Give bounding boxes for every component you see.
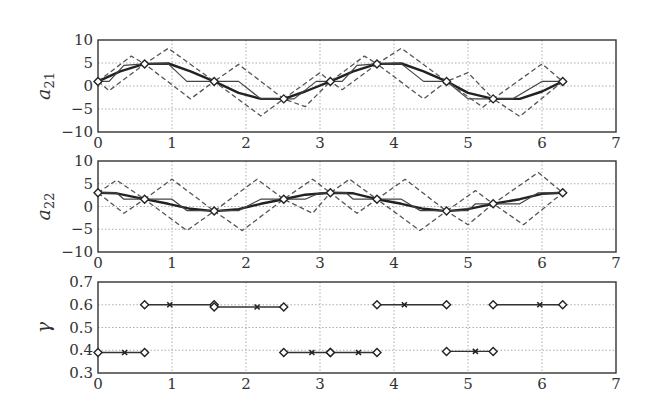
- x-tick-label: 6: [537, 375, 547, 393]
- x-tick-label: 7: [611, 375, 621, 393]
- y-axis-label: γ: [32, 321, 54, 333]
- x-tick-label: 5: [463, 134, 473, 152]
- series-line-dashed: [98, 64, 563, 117]
- diamond-marker: [326, 349, 334, 357]
- y-axis-label-main: γ: [32, 321, 54, 333]
- y-tick-label: 5: [83, 54, 93, 72]
- diamond-marker: [489, 301, 497, 309]
- x-tick-label: 3: [315, 254, 325, 272]
- panel-a22: 012345671050−5−10a22: [32, 152, 621, 272]
- x-tick-label: 2: [241, 375, 251, 393]
- y-axis-label: a22: [32, 193, 57, 221]
- y-tick-label: −10: [61, 123, 93, 141]
- diamond-marker: [280, 349, 288, 357]
- x-tick-label: 7: [611, 134, 621, 152]
- diamond-marker: [141, 60, 149, 68]
- x-tick-label: 4: [389, 254, 399, 272]
- y-tick-label: 5: [83, 175, 93, 193]
- y-axis-label-main: a: [32, 89, 54, 100]
- y-tick-label: 10: [74, 31, 93, 49]
- x-tick-label: 6: [537, 134, 547, 152]
- x-tick-label: 1: [167, 254, 177, 272]
- diamond-marker: [489, 347, 497, 355]
- y-tick-label: 0: [83, 198, 93, 216]
- x-tick-label: 4: [389, 134, 399, 152]
- y-axis-label-subscript: 21: [42, 72, 57, 89]
- x-tick-label: 5: [463, 375, 473, 393]
- diamond-marker: [141, 349, 149, 357]
- x-tick-label: 3: [315, 375, 325, 393]
- x-tick-label: 6: [537, 254, 547, 272]
- x-tick-label: 1: [167, 134, 177, 152]
- diamond-marker: [141, 301, 149, 309]
- diamond-marker: [443, 301, 451, 309]
- x-tick-label: 0: [93, 375, 103, 393]
- panel-a21: 012345671050−5−10a21: [32, 31, 621, 152]
- x-tick-label: 1: [167, 375, 177, 393]
- x-tick-label: 2: [241, 134, 251, 152]
- y-tick-label: 0.4: [69, 341, 93, 359]
- y-tick-label: 0.6: [69, 296, 93, 314]
- x-tick-label: 5: [463, 254, 473, 272]
- y-tick-label: 0.3: [69, 364, 93, 382]
- y-axis-label: a21: [32, 72, 57, 100]
- diamond-marker: [373, 195, 381, 203]
- figure: 012345671050−5−10a21 012345671050−5−10a2…: [0, 0, 654, 413]
- diamond-marker: [373, 301, 381, 309]
- diamond-marker: [559, 301, 567, 309]
- x-tick-label: 2: [241, 254, 251, 272]
- x-tick-label: 3: [315, 134, 325, 152]
- panel-gamma: 012345670.70.60.50.40.3γ: [32, 273, 621, 393]
- x-tick-label: 7: [611, 254, 621, 272]
- series-line-dashed: [98, 193, 563, 231]
- diamond-marker: [280, 303, 288, 311]
- y-axis-label-main: a: [32, 209, 54, 220]
- x-tick-label: 4: [389, 375, 399, 393]
- diamond-marker: [94, 349, 102, 357]
- y-tick-label: −5: [71, 100, 93, 118]
- diamond-marker: [443, 347, 451, 355]
- y-tick-label: 0: [83, 77, 93, 95]
- y-tick-label: −5: [71, 220, 93, 238]
- y-tick-label: 0.5: [69, 319, 93, 337]
- y-tick-label: −10: [61, 243, 93, 261]
- diamond-marker: [373, 349, 381, 357]
- y-tick-label: 10: [74, 152, 93, 170]
- x-tick-label: 0: [93, 254, 103, 272]
- y-axis-label-subscript: 22: [42, 193, 57, 210]
- x-tick-label: 0: [93, 134, 103, 152]
- y-tick-label: 0.7: [69, 273, 93, 291]
